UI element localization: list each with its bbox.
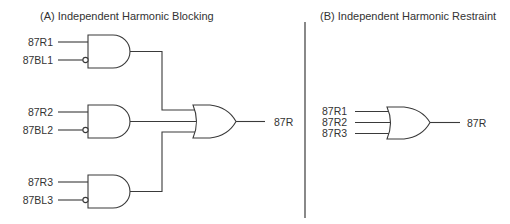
and-gate-1: 87R1 87BL1: [23, 35, 130, 68]
panel-a-title: (A) Independent Harmonic Blocking: [40, 10, 214, 22]
wire-and1-to-or: [130, 52, 195, 111]
input-label-87r1: 87R1: [28, 36, 53, 48]
and-gate-body: [88, 35, 130, 68]
or-gate-b: 87R: [387, 107, 487, 139]
and-gate-body: [88, 105, 130, 138]
input-label-87r3: 87R3: [322, 127, 347, 139]
input-label-87r3: 87R3: [28, 176, 53, 188]
wire-and3-to-or: [130, 132, 195, 192]
panel-b: (B) Independent Harmonic Restraint 87R1 …: [320, 10, 496, 139]
inverter-bubble-icon: [83, 127, 88, 132]
and-gate-2: 87R2 87BL2: [23, 105, 130, 138]
and-gate-body: [88, 175, 130, 208]
or-gate-body: [387, 107, 430, 139]
output-label-87r: 87R: [274, 116, 294, 128]
input-label-87bl1: 87BL1: [23, 54, 54, 66]
and-gate-3: 87R3 87BL3: [23, 175, 130, 208]
panel-a: (A) Independent Harmonic Blocking 87R1 8…: [23, 10, 294, 208]
input-label-87bl3: 87BL3: [23, 194, 54, 206]
or-gate-body: [193, 105, 236, 138]
inverter-bubble-icon: [83, 197, 88, 202]
input-label-87r2: 87R2: [28, 106, 53, 118]
or-gate-a: 87R: [193, 105, 294, 138]
inverter-bubble-icon: [83, 57, 88, 62]
panel-b-title: (B) Independent Harmonic Restraint: [320, 10, 496, 22]
logic-diagram: (A) Independent Harmonic Blocking 87R1 8…: [0, 0, 510, 224]
input-label-87bl2: 87BL2: [23, 124, 54, 136]
output-label-87r: 87R: [467, 117, 487, 129]
